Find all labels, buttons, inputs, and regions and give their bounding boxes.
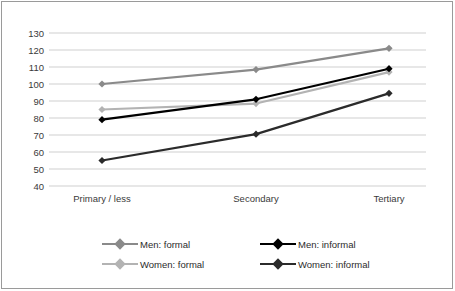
legend-swatch-icon	[102, 237, 138, 251]
chart-legend: Men: formal Women: formal Men: informal	[2, 234, 454, 288]
chart-figure: 130 120 110 100 90 80 70 60 50 40 Primar…	[1, 1, 453, 289]
y-axis-labels: 130 120 110 100 90 80 70 60 50 40	[28, 28, 44, 192]
y-tick-label: 40	[33, 181, 44, 192]
legend-column-left: Men: formal Women: formal	[102, 234, 204, 274]
y-tick-label: 60	[33, 147, 44, 158]
legend-label: Men: formal	[140, 239, 190, 250]
x-axis-labels: Primary / less Secondary Tertiary	[73, 193, 405, 204]
legend-item-men-informal[interactable]: Men: informal	[260, 234, 370, 254]
y-tick-label: 130	[28, 28, 44, 39]
legend-item-men-formal[interactable]: Men: formal	[102, 234, 204, 254]
data-point-marker	[252, 131, 259, 138]
x-tick-label: Secondary	[233, 193, 279, 204]
y-tick-label: 100	[28, 79, 44, 90]
y-tick-label: 110	[29, 62, 44, 73]
legend-item-women-formal[interactable]: Women: formal	[102, 254, 204, 274]
series-line	[102, 69, 389, 120]
diamond-marker-icon	[114, 238, 125, 249]
data-point-marker	[98, 80, 105, 87]
data-point-marker	[98, 116, 105, 123]
diamond-marker-icon	[272, 258, 283, 269]
y-tick-label: 90	[33, 96, 44, 107]
diamond-marker-icon	[114, 258, 125, 269]
plot-area: 130 120 110 100 90 80 70 60 50 40 Primar…	[2, 2, 454, 232]
x-tick-label: Primary / less	[73, 193, 131, 204]
legend-item-women-informal[interactable]: Women: informal	[260, 254, 370, 274]
legend-label: Women: formal	[140, 259, 204, 270]
line-chart-svg: 130 120 110 100 90 80 70 60 50 40 Primar…	[2, 2, 454, 232]
x-tick-label: Tertiary	[373, 193, 404, 204]
y-tick-label: 120	[28, 45, 44, 56]
data-series-layer	[98, 45, 392, 164]
data-point-marker	[252, 96, 259, 103]
series-men-informal	[98, 65, 392, 123]
legend-swatch-icon	[260, 237, 296, 251]
y-tick-label: 50	[33, 164, 44, 175]
legend-label: Men: informal	[298, 239, 356, 250]
legend-swatch-icon	[260, 257, 296, 271]
y-tick-label: 80	[33, 113, 44, 124]
data-point-marker	[385, 45, 392, 52]
data-point-marker	[385, 90, 392, 97]
legend-column-right: Men: informal Women: informal	[260, 234, 370, 274]
y-tick-label: 70	[33, 130, 44, 141]
legend-label: Women: informal	[298, 259, 370, 270]
data-point-marker	[98, 157, 105, 164]
diamond-marker-icon	[272, 238, 283, 249]
legend-swatch-icon	[102, 257, 138, 271]
data-point-marker	[98, 106, 105, 113]
